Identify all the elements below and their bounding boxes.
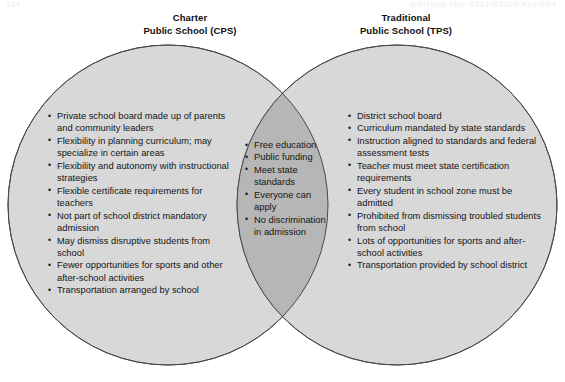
list-item: No discrimination in admission — [245, 214, 327, 239]
list-item: Lots of opportunities for sports and aft… — [348, 235, 544, 260]
list-item: Meet state standards — [245, 164, 327, 189]
list-item: Fewer opportunities for sports and other… — [48, 259, 230, 284]
list-item: Transportation arranged by school — [48, 284, 230, 296]
list-item: Curriculum mandated by state standards — [348, 122, 544, 134]
list-item: Private school board made up of parents … — [48, 110, 230, 135]
heading-charter-line1: Charter — [173, 12, 208, 23]
list-item: Flexible certificate requirements for te… — [48, 185, 230, 210]
venn-list-traditional-only: District school boardCurriculum mandated… — [348, 110, 544, 272]
list-item: Transportation provided by school distri… — [348, 259, 544, 271]
list-item: Flexibility and autonomy with instructio… — [48, 160, 230, 185]
heading-traditional-line1: Traditional — [381, 12, 430, 23]
list-item: Flexibility in planning curriculum; may … — [48, 135, 230, 160]
list-item: District school board — [348, 110, 544, 122]
list-item: May dismiss disruptive students from sch… — [48, 235, 230, 260]
heading-charter-public-school: Charter Public School (CPS) — [110, 12, 270, 37]
heading-traditional-public-school: Traditional Public School (TPS) — [326, 12, 486, 37]
list-item: Everyone can apply — [245, 189, 327, 214]
list-item: Prohibited from dismissing troubled stud… — [348, 210, 544, 235]
venn-list-shared: Free educationPublic fundingMeet state s… — [245, 139, 327, 239]
heading-traditional-line2: Public School (TPS) — [326, 25, 486, 38]
venn-diagram-page: 434 WRITING THE STATISTICS REPORT Charte… — [0, 0, 565, 382]
venn-list-charter-only: Private school board made up of parents … — [48, 110, 230, 297]
list-item: Free education — [245, 139, 327, 151]
list-item: Instruction aligned to standards and fed… — [348, 135, 544, 160]
heading-charter-line2: Public School (CPS) — [110, 25, 270, 38]
list-item: Public funding — [245, 151, 327, 163]
list-item: Not part of school district mandatory ad… — [48, 210, 230, 235]
list-item: Every student in school zone must be adm… — [348, 185, 544, 210]
list-item: Teacher must meet state certification re… — [348, 160, 544, 185]
